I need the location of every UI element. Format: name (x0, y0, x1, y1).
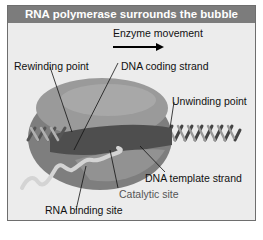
enzyme-movement-label: Enzyme movement (113, 27, 203, 39)
unwinding-point-label: Unwinding point (172, 95, 247, 107)
rna-binding-site-label: RNA binding site (45, 204, 123, 216)
dna-template-strand-label: DNA template strand (145, 172, 242, 184)
rewinding-point-label: Rewinding point (14, 60, 89, 72)
dna-helix-right (165, 126, 240, 140)
dna-coding-strand-label: DNA coding strand (121, 60, 209, 72)
enzyme-movement-arrow (113, 43, 164, 51)
catalytic-site-label: Catalytic site (119, 188, 179, 200)
